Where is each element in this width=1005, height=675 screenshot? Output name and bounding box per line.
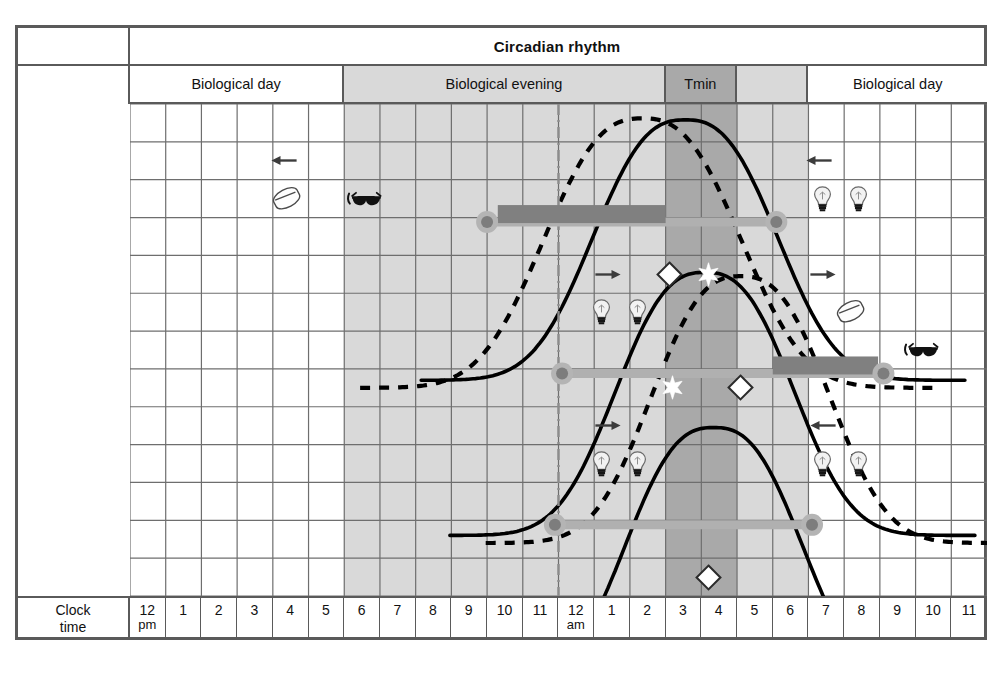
sleep-bar-night3-knob-end-inner bbox=[806, 519, 818, 531]
sunglasses-icon bbox=[346, 189, 386, 209]
clock-tick-1: 1 bbox=[166, 598, 202, 639]
clock-tick-22: 10 bbox=[916, 598, 952, 639]
clock-tick-20: 8 bbox=[844, 598, 880, 639]
clock-tick-hour: 5 bbox=[750, 603, 758, 618]
plot-area bbox=[130, 104, 987, 596]
sleep-bar-night2-knob-start-inner bbox=[556, 367, 568, 379]
clock-tick-16: 4 bbox=[701, 598, 737, 639]
sleep-bar-night2-knob-end-inner bbox=[877, 367, 889, 379]
phase-header-label: Biological day bbox=[191, 76, 280, 92]
light-bulb-icon bbox=[591, 450, 612, 478]
page-title: Circadian rhythm bbox=[130, 28, 984, 66]
clock-tick-5: 5 bbox=[309, 598, 345, 639]
pill-icon bbox=[833, 298, 869, 326]
pill-icon bbox=[269, 185, 305, 213]
diamond-star-icon bbox=[660, 375, 685, 400]
clock-tick-10: 10 bbox=[487, 598, 523, 639]
clock-tick-21: 9 bbox=[880, 598, 916, 639]
arrow-left-icon bbox=[809, 418, 837, 433]
clock-tick-hour: 11 bbox=[533, 603, 548, 618]
phase-header-label: Biological day bbox=[853, 76, 942, 92]
clock-tick-meridiem: pm bbox=[138, 618, 156, 632]
diamond-open-icon bbox=[727, 374, 754, 401]
light-bulb-icon bbox=[627, 450, 648, 478]
clock-tick-hour: 4 bbox=[715, 603, 723, 618]
diamond-open-icon bbox=[695, 564, 722, 591]
clock-tick-hour: 3 bbox=[251, 603, 259, 618]
phase-header-cell-biological-evening: Biological evening bbox=[344, 66, 665, 104]
clock-tick-12: 12am bbox=[559, 598, 595, 639]
light-bulb-icon bbox=[848, 185, 869, 213]
sleep-bar-night1-dark-block bbox=[498, 205, 666, 223]
phase-header-cell-biological-day: Biological day bbox=[808, 66, 987, 104]
clock-tick-2: 2 bbox=[201, 598, 237, 639]
light-bulb-icon bbox=[812, 185, 833, 213]
light-bulb-icon bbox=[627, 298, 648, 326]
clock-tick-hour: 12 bbox=[140, 603, 156, 618]
clock-tick-23: 11 bbox=[951, 598, 987, 639]
clock-tick-hour: 7 bbox=[822, 603, 830, 618]
light-bulb-icon bbox=[812, 450, 833, 478]
axis-label-line2: time bbox=[60, 619, 86, 635]
phase-header-label: Biological evening bbox=[445, 76, 562, 92]
clock-tick-hour: 11 bbox=[962, 603, 977, 618]
curve-night1-dashed bbox=[360, 118, 941, 387]
curve-night2-solid bbox=[450, 272, 975, 535]
sleep-bar-night1-knob-end-inner bbox=[770, 216, 782, 228]
figure-stage: Circadian rhythm Biological dayBiologica… bbox=[0, 0, 1005, 675]
clock-tick-hour: 6 bbox=[358, 603, 366, 618]
clock-tick-7: 7 bbox=[380, 598, 416, 639]
curve-night1-solid bbox=[421, 120, 965, 380]
clock-tick-hour: 1 bbox=[608, 603, 616, 618]
clock-tick-hour: 7 bbox=[393, 603, 401, 618]
clock-time-axis: Clock time 12pm123456789101112am12345678… bbox=[18, 596, 984, 637]
clock-tick-hour: 2 bbox=[643, 603, 651, 618]
arrow-left-icon bbox=[270, 153, 298, 168]
clock-tick-9: 9 bbox=[451, 598, 487, 639]
sleep-bar-night3-knob-start-inner bbox=[549, 519, 561, 531]
clock-tick-11: 11 bbox=[523, 598, 559, 639]
phase-header-cell-tmin: Tmin bbox=[666, 66, 737, 104]
sleep-bar-night1-knob-start-inner bbox=[481, 216, 493, 228]
figure-frame: Circadian rhythm Biological dayBiologica… bbox=[15, 25, 987, 640]
phase-header-row: Biological dayBiological eveningTminBiol… bbox=[18, 66, 984, 104]
phase-corner-cell bbox=[18, 66, 130, 104]
phase-header-cell-biological-day: Biological day bbox=[130, 66, 344, 104]
arrow-right-icon bbox=[594, 267, 622, 282]
clock-tick-13: 1 bbox=[594, 598, 630, 639]
clock-tick-4: 4 bbox=[273, 598, 309, 639]
arrow-right-icon bbox=[809, 267, 837, 282]
clock-tick-15: 3 bbox=[666, 598, 702, 639]
arrow-left-icon bbox=[805, 153, 833, 168]
arrow-right-icon bbox=[594, 418, 622, 433]
clock-tick-hour: 9 bbox=[893, 603, 901, 618]
diamond-star-icon bbox=[696, 262, 721, 287]
clock-tick-hour: 10 bbox=[925, 603, 941, 618]
clock-tick-hour: 8 bbox=[858, 603, 866, 618]
light-bulb-icon bbox=[848, 450, 869, 478]
clock-tick-hour: 6 bbox=[786, 603, 794, 618]
clock-tick-hour: 1 bbox=[179, 603, 187, 618]
clock-tick-14: 2 bbox=[630, 598, 666, 639]
phase-header-label: Tmin bbox=[684, 76, 716, 92]
light-bulb-icon bbox=[591, 298, 612, 326]
clock-tick-17: 5 bbox=[737, 598, 773, 639]
axis-label-line1: Clock bbox=[55, 602, 90, 618]
clock-tick-hour: 10 bbox=[497, 603, 513, 618]
clock-tick-hour: 5 bbox=[322, 603, 330, 618]
diamond-open-icon bbox=[656, 261, 683, 288]
clock-tick-18: 6 bbox=[773, 598, 809, 639]
clock-tick-hour: 2 bbox=[215, 603, 223, 618]
clock-tick-hour: 8 bbox=[429, 603, 437, 618]
sleep-bar-night2-dark-block bbox=[773, 356, 878, 374]
curves-and-bars bbox=[130, 104, 987, 596]
clock-tick-19: 7 bbox=[808, 598, 844, 639]
clock-tick-hour: 9 bbox=[465, 603, 473, 618]
clock-tick-meridiem: am bbox=[567, 618, 585, 632]
sunglasses-icon bbox=[903, 340, 943, 360]
axis-row-label: Clock time bbox=[18, 598, 130, 639]
clock-tick-hour: 4 bbox=[286, 603, 294, 618]
phase-header-cell-blank bbox=[737, 66, 808, 104]
clock-tick-8: 8 bbox=[416, 598, 452, 639]
clock-tick-hour: 3 bbox=[679, 603, 687, 618]
